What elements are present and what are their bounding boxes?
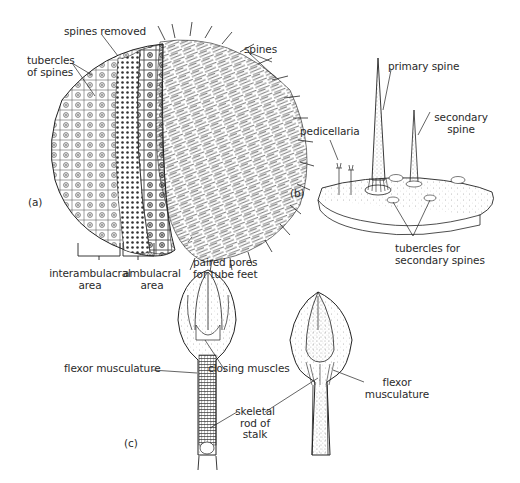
label-tubercles-of-spines: tubercles of spines bbox=[27, 55, 75, 78]
panel-label-b: (b) bbox=[290, 188, 305, 200]
panel-label-c: (c) bbox=[124, 438, 138, 450]
label-paired-pores: paired pores for tube feet bbox=[193, 257, 257, 280]
panel-b-drawing bbox=[318, 58, 494, 236]
label-tubercles-for-secondary-spines: tubercles for secondary spines bbox=[395, 243, 485, 266]
sea-urchin-figure: spines removed tubercles of spines spine… bbox=[0, 0, 520, 483]
label-spines: spines bbox=[244, 44, 277, 56]
label-spines-removed: spines removed bbox=[64, 26, 146, 38]
label-primary-spine: primary spine bbox=[388, 61, 459, 73]
label-ambulacral-area: ambulacral area bbox=[120, 268, 184, 291]
label-skeletal-rod-of-stalk: skeletal rod of stalk bbox=[230, 406, 280, 441]
label-pedicellaria: pedicellaria bbox=[300, 126, 360, 138]
label-secondary-spine: secondary spine bbox=[430, 112, 492, 135]
label-flexor-musculature-left: flexor musculature bbox=[64, 363, 161, 375]
label-flexor-musculature-right: flexor musculature bbox=[352, 377, 442, 400]
panel-label-a: (a) bbox=[28, 197, 42, 209]
panel-a-drawing bbox=[51, 22, 314, 272]
label-closing-muscles: closing muscles bbox=[208, 363, 290, 375]
